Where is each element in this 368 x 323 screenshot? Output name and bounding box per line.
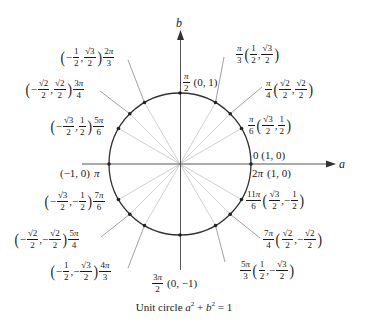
- a-axis-label: a: [339, 157, 345, 172]
- label-3pi-over-2: 3π2 (0, −1): [151, 273, 197, 294]
- a-axis-arrow-icon: [326, 161, 336, 168]
- label-pi-over-3: π3 ( 12 , √32 ): [235, 44, 280, 65]
- label-pi-over-6: π6 ( √32 , 12 ): [247, 115, 292, 136]
- label-2pi-over-3: ( −12 , √32 ) 2π3: [60, 47, 115, 68]
- label-3pi-over-4: ( −√22 , √22 ) 3π4: [25, 79, 85, 100]
- label-7pi-over-6: ( −√32 , −12 ) 7π6: [44, 191, 106, 212]
- label-pi-over-4: π4 ( √22 , √22 ): [264, 79, 314, 100]
- label-two-pi: 2π (1, 0): [252, 168, 291, 179]
- label-5pi-over-6: ( −√32 , 12 ) 5π6: [50, 116, 105, 137]
- label-zero: 0 (1, 0): [253, 150, 285, 161]
- b-axis-label: b: [176, 16, 182, 31]
- label-pi-over-2: π2 (0, 1): [182, 72, 217, 93]
- label-4pi-over-3: ( −12 , −√32 ) 4π3: [50, 261, 112, 282]
- label-5pi-over-4: ( −√22 , −√22 ) 5π4: [14, 229, 80, 250]
- b-axis-arrow-icon: [177, 30, 184, 40]
- label-11pi-over-6: 11π6 ( √32 , −12 ): [245, 190, 304, 211]
- caption: Unit circle a2 + b2 = 1: [0, 300, 368, 313]
- label-7pi-over-4: 7π4 ( √22 , −√22 ): [262, 229, 322, 250]
- label-pi: (−1, 0) π: [60, 168, 100, 179]
- label-5pi-over-3: 5π3 ( 12 , −√32 ): [239, 260, 294, 281]
